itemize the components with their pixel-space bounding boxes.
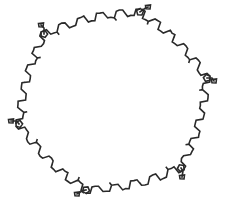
chain-edge-1	[142, 10, 209, 76]
molecule-diagram	[0, 0, 225, 205]
chain-edge-5	[16, 33, 45, 123]
vertex-node-left	[9, 119, 23, 127]
chain-edge-0	[43, 9, 139, 35]
chain-edge-2	[181, 79, 210, 169]
chain-edge-3	[87, 167, 182, 193]
macrocycle-structure	[0, 0, 225, 205]
chain-edge-4	[16, 127, 83, 193]
